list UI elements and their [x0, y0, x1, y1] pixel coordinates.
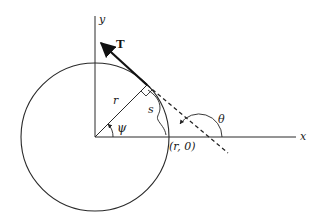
- point-label: (r, 0): [169, 140, 196, 153]
- theta-angle-arc: [180, 114, 222, 137]
- arc-length-label: s: [148, 103, 154, 116]
- right-angle-marker: [141, 85, 152, 96]
- psi-angle-arc: [108, 124, 113, 137]
- psi-label: ψ: [117, 121, 127, 135]
- tangent-vector-label: T: [116, 36, 125, 51]
- circle-tangent-diagram: y x T r s ψ θ (r, 0): [0, 0, 324, 223]
- x-axis-label: x: [300, 130, 307, 143]
- y-axis-label: y: [98, 13, 106, 26]
- theta-label: θ: [218, 113, 225, 126]
- radius-label: r: [113, 94, 119, 107]
